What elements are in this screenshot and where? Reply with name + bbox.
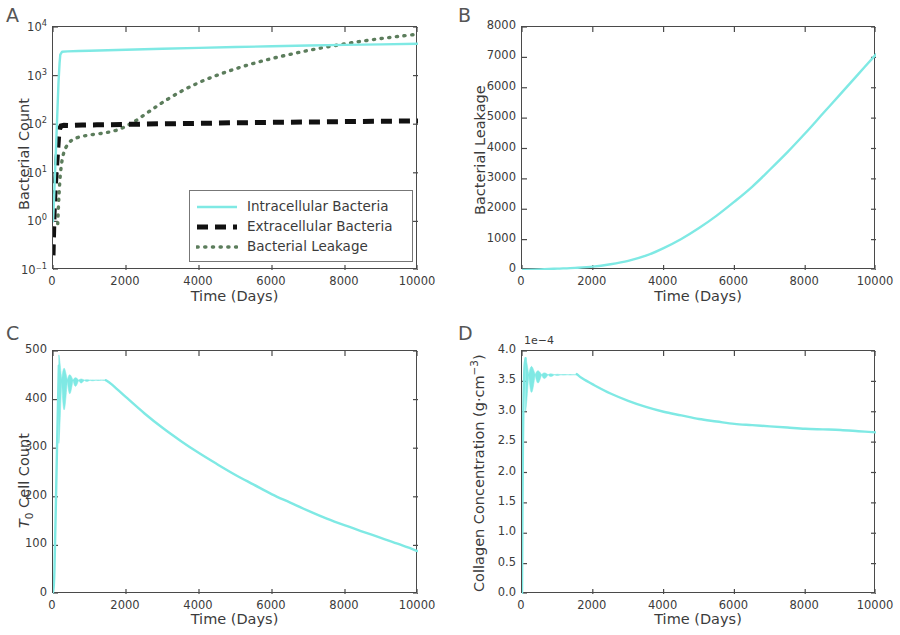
series-solid: [522, 54, 876, 270]
y-tick-label: 0.5: [475, 555, 516, 569]
x-tick-label: 8000: [774, 274, 834, 288]
y-tick-label: 4000: [475, 140, 516, 154]
y-tick-label: 3.5: [475, 372, 516, 386]
x-tick-label: 8000: [774, 598, 834, 612]
x-tick-label: 2000: [562, 598, 622, 612]
panel-b-letter: B: [458, 4, 471, 26]
series-solid: [106, 380, 418, 551]
x-tick-label: 8000: [314, 598, 374, 612]
y-tick-label: 104: [6, 18, 47, 34]
x-tick-label: 0: [491, 598, 551, 612]
y-tick-label: 0.0: [475, 585, 516, 599]
x-tick-label: 4000: [633, 274, 693, 288]
panel-d-plot-area: [521, 350, 875, 593]
y-tick-label: 7000: [475, 48, 516, 62]
panel-a-legend: Intracellular BacteriaExtracellular Bact…: [189, 190, 413, 262]
x-tick-label: 0: [22, 274, 82, 288]
panel-c-plot-area: [52, 350, 417, 593]
x-tick-label: 6000: [703, 274, 763, 288]
y-tick-label: 103: [6, 67, 47, 83]
y-tick-label: 1.0: [475, 524, 516, 538]
panel-a-xlabel: Time (Days): [52, 288, 417, 304]
panel-b-xlabel: Time (Days): [521, 288, 875, 304]
x-tick-label: 10000: [387, 274, 447, 288]
x-tick-label: 2000: [95, 598, 155, 612]
oscillation-envelope: [526, 358, 577, 411]
legend-item: Intracellular Bacteria: [196, 196, 404, 216]
legend-key-solid-icon: [196, 199, 238, 213]
y-tick-label: 1000: [475, 231, 516, 245]
x-tick-label: 2000: [95, 274, 155, 288]
x-tick-label: 4000: [168, 274, 228, 288]
y-tick-label: 4.0: [475, 342, 516, 356]
y-tick-label: 2.5: [475, 433, 516, 447]
x-tick-label: 10000: [387, 598, 447, 612]
y-tick-label: 3000: [475, 170, 516, 184]
legend-item: Bacterial Leakage: [196, 236, 404, 256]
y-tick-label: 100: [6, 212, 47, 228]
y-tick-label: 200: [6, 488, 47, 502]
y-tick-label: 3.0: [475, 403, 516, 417]
y-tick-label: 300: [6, 439, 47, 453]
oscillation-envelope: [59, 355, 106, 443]
legend-label: Extracellular Bacteria: [247, 218, 392, 234]
series-solid: [522, 358, 526, 594]
x-tick-label: 6000: [703, 598, 763, 612]
x-tick-label: 10000: [845, 274, 900, 288]
x-tick-label: 2000: [562, 274, 622, 288]
legend-key-dotted-icon: [196, 239, 238, 253]
y-tick-label: 0: [6, 585, 47, 599]
four-panel-figure: A Bacterial Count Time (Days) 1041031021…: [0, 0, 900, 635]
y-tick-label: 100: [6, 536, 47, 550]
panel-d-offset-text: 1e−4: [524, 334, 554, 347]
legend-label: Intracellular Bacteria: [247, 198, 388, 214]
series-solid: [577, 374, 876, 432]
y-tick-label: 500: [6, 342, 47, 356]
y-tick-label: 1.5: [475, 494, 516, 508]
x-tick-label: 4000: [633, 598, 693, 612]
x-tick-label: 0: [22, 598, 82, 612]
x-tick-label: 4000: [168, 598, 228, 612]
y-tick-label: 102: [6, 115, 47, 131]
panel-d-xlabel: Time (Days): [521, 611, 875, 627]
panel-c-letter: C: [6, 322, 19, 344]
legend-key-dashed-icon: [196, 219, 238, 233]
y-tick-label: 6000: [475, 79, 516, 93]
y-tick-label: 400: [6, 391, 47, 405]
legend-label: Bacterial Leakage: [247, 238, 368, 254]
x-tick-label: 6000: [241, 598, 301, 612]
x-tick-label: 8000: [314, 274, 374, 288]
y-tick-label: 5000: [475, 109, 516, 123]
panel-d-letter: D: [458, 322, 473, 344]
y-tick-label: 0: [475, 261, 516, 275]
panel-b-plot-area: [521, 26, 875, 269]
panel-c-xlabel: Time (Days): [52, 611, 417, 627]
x-tick-label: 6000: [241, 274, 301, 288]
y-tick-label: 2000: [475, 200, 516, 214]
y-tick-label: 2.0: [475, 464, 516, 478]
y-tick-label: 8000: [475, 18, 516, 32]
x-tick-label: 0: [491, 274, 551, 288]
legend-item: Extracellular Bacteria: [196, 216, 404, 236]
x-tick-label: 10000: [845, 598, 900, 612]
y-tick-label: 101: [6, 164, 47, 180]
